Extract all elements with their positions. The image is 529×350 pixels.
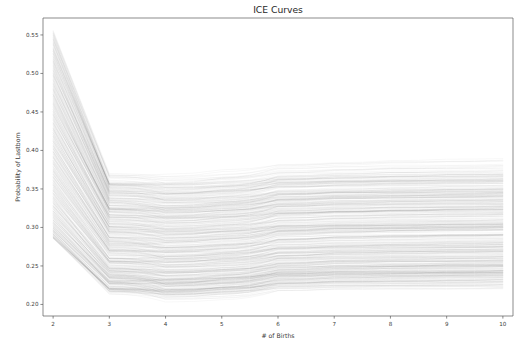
y-tick-label: 0.35 xyxy=(26,186,39,192)
chart-title: ICE Curves xyxy=(253,4,303,15)
x-tick-label: 2 xyxy=(51,321,55,327)
chart-figure: ICE Curves 2345678910 0.200.250.300.350.… xyxy=(0,0,529,350)
x-tick-label: 7 xyxy=(332,321,336,327)
x-tick-label: 3 xyxy=(108,321,112,327)
x-tick-label: 9 xyxy=(445,321,449,327)
y-tick-label: 0.25 xyxy=(26,263,39,269)
x-tick-label: 6 xyxy=(276,321,280,327)
y-tick-label: 0.40 xyxy=(26,147,39,153)
y-tick-label: 0.20 xyxy=(26,301,39,307)
x-tick-label: 4 xyxy=(164,321,168,327)
y-tick-label: 0.30 xyxy=(26,224,39,230)
y-tick-label: 0.50 xyxy=(26,70,39,76)
x-tick-label: 5 xyxy=(220,321,224,327)
x-tick-label: 10 xyxy=(499,321,507,327)
y-tick-label: 0.55 xyxy=(26,32,39,38)
y-axis-label: Probability of Lastborn xyxy=(14,132,22,202)
x-axis-label: # of Births xyxy=(261,332,294,339)
x-tick-label: 8 xyxy=(389,321,393,327)
ice-curves-chart: ICE Curves 2345678910 0.200.250.300.350.… xyxy=(0,0,529,350)
y-tick-label: 0.45 xyxy=(26,109,39,115)
